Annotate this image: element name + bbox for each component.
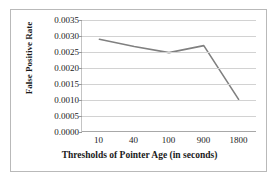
gridline (82, 52, 256, 53)
chart-frame: False Positive Rate 0.00350.00300.00250.… (10, 9, 267, 172)
plot-area (81, 20, 256, 132)
gridline (82, 36, 256, 37)
x-tick-label: 1800 (230, 136, 248, 145)
y-tick-label: 0.0025 (35, 48, 79, 57)
x-tick-label: 900 (197, 136, 211, 145)
y-tick-label: 0.0035 (35, 16, 79, 25)
gridline (82, 20, 256, 21)
x-tick-label: 100 (162, 136, 176, 145)
y-tick-label: 0.0015 (35, 80, 79, 89)
y-axis-tick-labels: 0.00350.00300.00250.00200.00150.00100.00… (35, 20, 79, 132)
line-series-path (99, 39, 238, 99)
y-tick-mark (79, 132, 82, 133)
y-tick-label: 0.0000 (35, 128, 79, 137)
x-axis-tick-labels: 10401009001800 (81, 136, 256, 150)
y-tick-label: 0.0005 (35, 112, 79, 121)
gridline (82, 84, 256, 85)
gridline (82, 100, 256, 101)
x-tick-label: 40 (129, 136, 138, 145)
y-tick-label: 0.0010 (35, 96, 79, 105)
gridline (82, 68, 256, 69)
y-axis-title: False Positive Rate (24, 2, 34, 114)
y-tick-label: 0.0030 (35, 32, 79, 41)
gridline (82, 116, 256, 117)
y-tick-label: 0.0020 (35, 64, 79, 73)
x-axis-title: Thresholds of Pointer Age (in seconds) (17, 150, 262, 160)
x-tick-label: 10 (94, 136, 103, 145)
chart-screenshot: False Positive Rate 0.00350.00300.00250.… (0, 0, 276, 182)
